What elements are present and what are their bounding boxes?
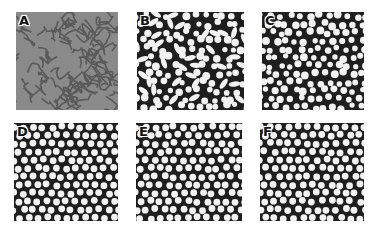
pattern-texture (262, 12, 364, 110)
pattern-texture (137, 12, 244, 110)
panel-c-spot-pattern: C (262, 12, 364, 110)
panel-label: E (139, 125, 148, 138)
panel-e-hexagonal-pattern: E (136, 123, 242, 221)
pattern-texture (136, 123, 242, 221)
pattern-texture (16, 12, 118, 110)
panel-f-hexagonal-pattern: F (260, 123, 364, 221)
panel-label: F (263, 125, 272, 138)
panel-label: C (265, 14, 275, 27)
panel-label: D (17, 125, 28, 138)
panel-d-hexagonal-pattern: D (14, 123, 118, 221)
panel-label: A (19, 14, 29, 27)
panel-b-mixed-pattern: B (137, 12, 244, 110)
pattern-texture (14, 123, 118, 221)
panel-a-labyrinth-pattern: A (16, 12, 118, 110)
pattern-texture (260, 123, 364, 221)
panel-label: B (140, 14, 150, 27)
